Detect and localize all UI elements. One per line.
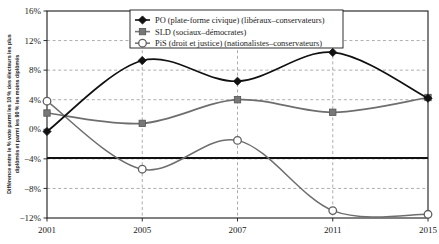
y-tick-label: 16% xyxy=(25,6,42,16)
legend-item-label: PO (plate-forme civique) (libéraux–conse… xyxy=(155,16,325,25)
x-tick-label: 2001 xyxy=(38,225,56,235)
data-point-pis xyxy=(43,97,51,105)
line-chart: 16%12%8%4%0%−4%−8%−12% 20012005200720112… xyxy=(0,0,439,244)
x-tick-label: 2007 xyxy=(229,225,248,235)
y-tick-label: −8% xyxy=(24,184,42,194)
chart-legend: PO (plate-forme civique) (libéraux–conse… xyxy=(130,10,343,48)
legend-item-label: PiS (droit et justice) (nationalistes–co… xyxy=(155,39,322,48)
y-tick-label: 12% xyxy=(25,36,42,46)
y-axis-title: Différence entre le % vote parmi les 10 … xyxy=(6,34,20,194)
data-point-pis xyxy=(234,137,242,145)
y-tick-label: −12% xyxy=(19,213,41,223)
legend-item-label: SLD (sociaux–démocrates) xyxy=(155,28,247,37)
y-tick-label: 0% xyxy=(29,124,42,134)
legend-item[interactable]: PiS (droit et justice) (nationalistes–co… xyxy=(135,39,322,48)
y-tick-label: −4% xyxy=(24,154,42,164)
legend-marker-icon xyxy=(139,39,147,47)
y-tick-label: 8% xyxy=(29,65,42,75)
y-tick-label: 4% xyxy=(29,95,42,105)
data-point-sld xyxy=(139,120,145,126)
y-axis-title-line1: Différence entre le % vote parmi les 10 … xyxy=(6,34,12,194)
data-point-sld xyxy=(330,109,336,115)
x-tick-label: 2011 xyxy=(324,225,342,235)
y-axis: 16%12%8%4%0%−4%−8%−12% xyxy=(19,6,47,223)
y-axis-title-line2: diplômés et parmi les 90 % les moins dip… xyxy=(14,55,20,173)
data-point-sld xyxy=(234,97,240,103)
data-point-pis xyxy=(138,165,146,173)
x-axis: 20012005200720112015 xyxy=(38,218,438,235)
legend-item[interactable]: PO (plate-forme civique) (libéraux–conse… xyxy=(135,16,325,25)
x-tick-label: 2015 xyxy=(419,225,438,235)
data-point-pis xyxy=(329,207,337,215)
legend-marker-icon xyxy=(139,28,145,34)
chart-figure: 16%12%8%4%0%−4%−8%−12% 20012005200720112… xyxy=(0,0,439,244)
data-point-sld xyxy=(44,110,50,116)
data-point-pis xyxy=(424,211,432,219)
x-tick-label: 2005 xyxy=(133,225,152,235)
